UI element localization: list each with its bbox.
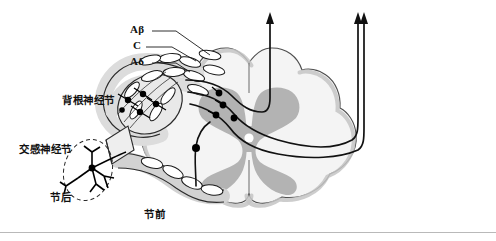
label-dorsal-root-ganglion: 背根神经节 <box>62 95 115 106</box>
label-a-beta: Aβ <box>130 24 144 35</box>
spinal-cord-illustration <box>0 0 496 241</box>
label-a-delta: Aδ <box>130 56 144 67</box>
label-preganglionic: 节前 <box>144 209 165 220</box>
central-canal <box>244 133 253 142</box>
label-sympathetic-ganglion: 交感神经节 <box>19 144 72 155</box>
bottom-divider-rule <box>0 232 496 233</box>
label-c-fiber: C <box>133 40 141 51</box>
label-postganglionic: 节后 <box>50 192 71 203</box>
spinal-cord-diagram-figure: Aβ C Aδ 背根神经节 交感神经节 节后 节前 <box>0 0 496 241</box>
ascending-tract-arrowheads <box>266 12 368 24</box>
